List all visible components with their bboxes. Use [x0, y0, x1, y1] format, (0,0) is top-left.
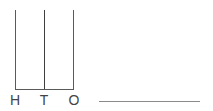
hundreds-rod	[15, 10, 16, 90]
tens-label: T	[36, 92, 52, 108]
hundreds-label: H	[7, 92, 23, 108]
abacus-base	[15, 89, 74, 90]
answer-blank-line[interactable]	[99, 101, 200, 102]
place-value-abacus: H T O	[0, 0, 90, 111]
tens-rod	[44, 10, 45, 90]
ones-rod	[73, 10, 74, 90]
ones-label: O	[66, 92, 82, 108]
